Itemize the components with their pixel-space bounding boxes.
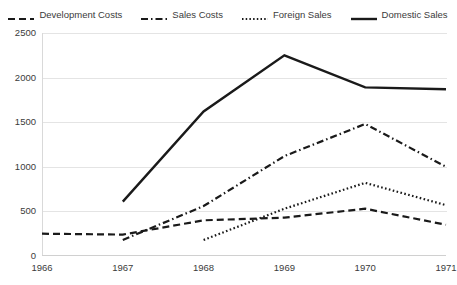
legend-swatch-dash-dot-icon	[140, 10, 168, 20]
x-axis-tick-label: 1967	[112, 262, 133, 274]
y-axis-tick-label: 1500	[0, 117, 36, 127]
series-line-foreign-sales	[204, 183, 446, 240]
y-axis-tick-label: 0	[0, 251, 36, 261]
legend-label-foreign-sales: Foreign Sales	[273, 10, 332, 20]
y-axis-tick-label: 2500	[0, 28, 36, 38]
chart-legend: Development Costs Sales Costs Foreign Sa…	[0, 6, 455, 24]
x-axis-tick-label: 1968	[193, 262, 214, 274]
y-axis-ticks: 05001000150020002500	[0, 33, 38, 256]
series-line-development-costs	[42, 209, 446, 235]
series-line-sales-costs	[123, 124, 446, 240]
x-axis-ticks: 196619671968196919701971	[42, 262, 446, 276]
legend-swatch-dashed-icon	[7, 10, 35, 20]
plot-area	[42, 33, 446, 256]
x-axis-tick-label: 1969	[274, 262, 295, 274]
legend-item-sales-costs[interactable]: Sales Costs	[140, 10, 223, 20]
y-axis-tick-label: 2000	[0, 73, 36, 83]
y-axis-tick-label: 1000	[0, 162, 36, 172]
legend-item-development-costs[interactable]: Development Costs	[7, 10, 122, 20]
x-axis-tick-label: 1970	[355, 262, 376, 274]
legend-label-sales-costs: Sales Costs	[172, 10, 223, 20]
legend-item-foreign-sales[interactable]: Foreign Sales	[241, 10, 332, 20]
y-axis-tick-label: 500	[0, 206, 36, 216]
legend-item-domestic-sales[interactable]: Domestic Sales	[350, 10, 448, 20]
x-axis-tick-label: 1966	[31, 262, 52, 274]
series-line-domestic-sales	[123, 55, 446, 201]
legend-swatch-solid-icon	[350, 10, 378, 20]
x-axis-tick-label: 1971	[435, 262, 456, 274]
legend-label-domestic-sales: Domestic Sales	[382, 10, 448, 20]
legend-label-development-costs: Development Costs	[39, 10, 122, 20]
series-layer	[42, 33, 446, 256]
legend-swatch-dotted-icon	[241, 10, 269, 20]
